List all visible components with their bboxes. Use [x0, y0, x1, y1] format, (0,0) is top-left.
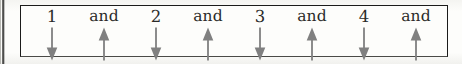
beat-column-2-and: and — [182, 5, 234, 64]
beat-label: and — [193, 7, 223, 26]
beat-column-1-and: and — [78, 5, 130, 64]
arrow-up-icon — [96, 27, 112, 61]
beat-row: 1 and 2 and 3 — [20, 5, 448, 64]
arrow-down-icon — [44, 27, 60, 61]
beat-label: and — [297, 7, 327, 26]
arrow-down-icon — [148, 27, 164, 61]
counting-diagram-page: 1 and 2 and 3 — [0, 0, 462, 64]
page-edge-line — [0, 0, 1, 64]
beat-label: 1 — [47, 7, 58, 26]
arrow-up-icon — [304, 27, 320, 61]
beat-column-3-and: and — [286, 5, 338, 64]
arrow-up-icon — [200, 27, 216, 61]
arrow-up-icon — [408, 27, 424, 61]
beat-label: and — [401, 7, 431, 26]
beat-column-4: 4 — [338, 5, 390, 64]
beat-column-2: 2 — [130, 5, 182, 64]
beat-label: 4 — [359, 7, 370, 26]
beat-label: 2 — [151, 7, 162, 26]
beat-label: and — [89, 7, 119, 26]
arrow-down-icon — [252, 27, 268, 61]
left-vertical-rule — [2, 0, 5, 64]
beat-label: 3 — [255, 7, 266, 26]
arrow-down-icon — [356, 27, 372, 61]
beat-column-3: 3 — [234, 5, 286, 64]
beat-column-1: 1 — [26, 5, 78, 64]
beat-column-4-and: and — [390, 5, 442, 64]
